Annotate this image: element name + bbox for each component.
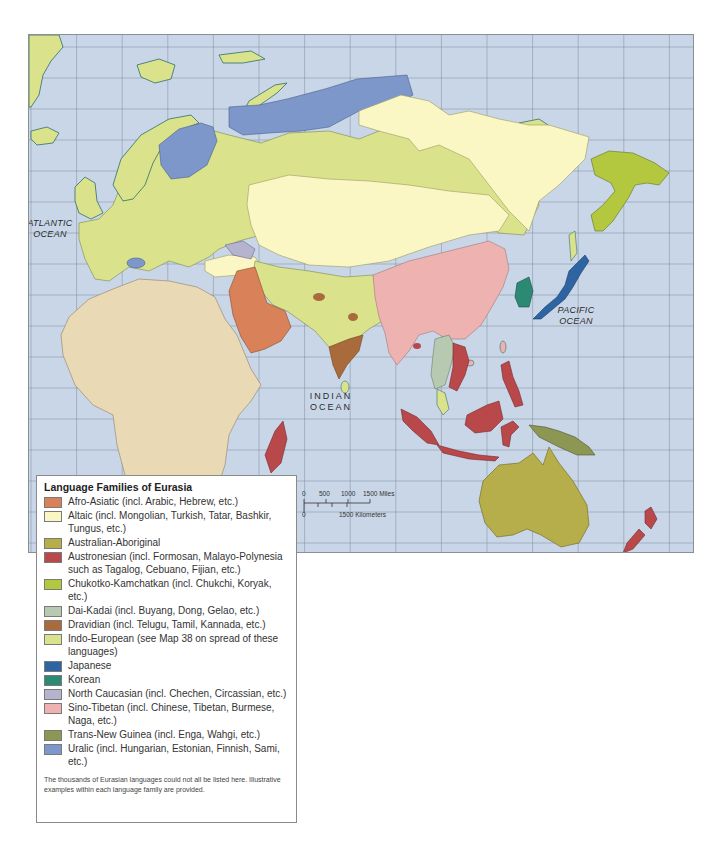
legend-swatch bbox=[44, 689, 62, 700]
legend-item: Dravidian (incl. Telugu, Tamil, Kannada,… bbox=[44, 618, 290, 631]
scale-label-0-km: 0 bbox=[302, 511, 306, 518]
region-australia bbox=[479, 447, 589, 547]
scale-bar: 0 500 1000 1500 Miles 0 1500 Kilometers bbox=[303, 490, 413, 530]
legend-item: Afro-Asiatic (incl. Arabic, Hebrew, etc.… bbox=[44, 495, 290, 508]
legend-label: North Caucasian (incl. Chechen, Circassi… bbox=[68, 687, 286, 700]
legend-label: Korean bbox=[68, 673, 100, 686]
scale-label-500: 500 bbox=[319, 490, 330, 497]
legend-swatch bbox=[44, 675, 62, 686]
scale-label-1500-km: 1500 Kilometers bbox=[339, 511, 386, 518]
region-new-zealand-north bbox=[645, 507, 657, 529]
atlantic-label-line2: OCEAN bbox=[28, 229, 75, 240]
legend-item: Australian-Aboriginal bbox=[44, 536, 290, 549]
scale-label-1000: 1000 bbox=[341, 490, 355, 497]
legend-item: North Caucasian (incl. Chechen, Circassi… bbox=[44, 687, 290, 700]
legend-label: Chukotko-Kamchatkan (incl. Chukchi, Kory… bbox=[68, 577, 290, 603]
legend-item: Sino-Tibetan (incl. Chinese, Tibetan, Bu… bbox=[44, 701, 290, 727]
legend-item: Uralic (incl. Hungarian, Estonian, Finni… bbox=[44, 742, 290, 768]
region-greenland bbox=[29, 35, 63, 107]
region-austronesian-sumatra bbox=[401, 409, 439, 445]
legend-swatch bbox=[44, 744, 62, 755]
legend-item: Altaic (incl. Mongolian, Turkish, Tatar,… bbox=[44, 509, 290, 535]
region-dravidian-brahui bbox=[313, 293, 325, 301]
legend-label: Trans-New Guinea (incl. Enga, Wahgi, etc… bbox=[68, 728, 260, 741]
region-malay-peninsula bbox=[437, 389, 449, 415]
region-trans-new-guinea bbox=[529, 425, 595, 455]
region-new-zealand-south bbox=[623, 529, 645, 553]
scale-label-1500-miles: 1500 Miles bbox=[363, 490, 394, 497]
legend-item: Chukotko-Kamchatkan (incl. Chukchi, Kory… bbox=[44, 577, 290, 603]
pacific-label-line2: OCEAN bbox=[551, 316, 601, 327]
legend-note: The thousands of Eurasian languages coul… bbox=[44, 775, 290, 794]
region-taiwan bbox=[500, 341, 506, 353]
legend-swatch bbox=[44, 661, 62, 672]
legend-title: Language Families of Eurasia bbox=[44, 481, 290, 493]
legend-swatch bbox=[44, 497, 62, 508]
legend-item: Japanese bbox=[44, 659, 290, 672]
region-dravidian-gondi bbox=[348, 313, 358, 321]
region-austronesian-borneo bbox=[465, 401, 503, 433]
legend-label: Dai-Kadai (incl. Buyang, Dong, Gelao, et… bbox=[68, 604, 259, 617]
region-sakhalin bbox=[569, 231, 577, 261]
pacific-ocean-label: PACIFIC OCEAN bbox=[551, 305, 601, 327]
legend-label: Altaic (incl. Mongolian, Turkish, Tatar,… bbox=[68, 509, 290, 535]
legend-label: Austronesian (incl. Formosan, Malayo-Pol… bbox=[68, 550, 290, 576]
legend-label: Indo-European (see Map 38 on spread of t… bbox=[68, 632, 290, 658]
legend-swatch bbox=[44, 620, 62, 631]
legend-label: Uralic (incl. Hungarian, Estonian, Finni… bbox=[68, 742, 290, 768]
legend-item: Indo-European (see Map 38 on spread of t… bbox=[44, 632, 290, 658]
legend-swatch bbox=[44, 730, 62, 741]
atlantic-label-line1: ATLANTIC bbox=[28, 218, 75, 229]
legend-items: Afro-Asiatic (incl. Arabic, Hebrew, etc.… bbox=[44, 495, 290, 768]
legend-item: Dai-Kadai (incl. Buyang, Dong, Gelao, et… bbox=[44, 604, 290, 617]
legend-label: Afro-Asiatic (incl. Arabic, Hebrew, etc.… bbox=[68, 495, 238, 508]
region-svalbard bbox=[137, 59, 175, 83]
region-franz-josef bbox=[219, 51, 265, 63]
region-austronesian-philippines bbox=[501, 361, 523, 407]
atlantic-ocean-label: ATLANTIC OCEAN bbox=[28, 218, 75, 240]
legend-item: Trans-New Guinea (incl. Enga, Wahgi, etc… bbox=[44, 728, 290, 741]
legend-label: Sino-Tibetan (incl. Chinese, Tibetan, Bu… bbox=[68, 701, 290, 727]
region-austronesian-java bbox=[437, 445, 499, 461]
region-iceland bbox=[31, 127, 59, 145]
legend-swatch bbox=[44, 511, 62, 522]
region-british-isles bbox=[75, 177, 103, 219]
legend-item: Korean bbox=[44, 673, 290, 686]
indian-ocean-label: INDIAN OCEAN bbox=[301, 391, 361, 413]
legend-swatch bbox=[44, 634, 62, 645]
legend-swatch bbox=[44, 538, 62, 549]
pacific-label-line1: PACIFIC bbox=[551, 305, 601, 316]
indian-label-line2: OCEAN bbox=[301, 402, 361, 413]
region-uralic-hungary bbox=[127, 258, 145, 268]
region-austronesian-sulawesi bbox=[501, 421, 519, 447]
legend-swatch bbox=[44, 703, 62, 714]
legend-swatch bbox=[44, 552, 62, 563]
legend-swatch bbox=[44, 579, 62, 590]
legend-label: Australian-Aboriginal bbox=[68, 536, 160, 549]
region-chukotko-kamchatkan bbox=[591, 151, 669, 231]
region-madagascar bbox=[265, 421, 287, 473]
legend-box: Language Families of Eurasia Afro-Asiati… bbox=[36, 475, 297, 823]
scale-label-0-miles: 0 bbox=[302, 490, 306, 497]
indian-label-line1: INDIAN bbox=[301, 391, 361, 402]
region-austronesian-spot1 bbox=[413, 343, 421, 349]
legend-label: Japanese bbox=[68, 659, 111, 672]
legend-swatch bbox=[44, 606, 62, 617]
legend-label: Dravidian (incl. Telugu, Tamil, Kannada,… bbox=[68, 618, 266, 631]
region-korea bbox=[515, 277, 533, 307]
legend-item: Austronesian (incl. Formosan, Malayo-Pol… bbox=[44, 550, 290, 576]
